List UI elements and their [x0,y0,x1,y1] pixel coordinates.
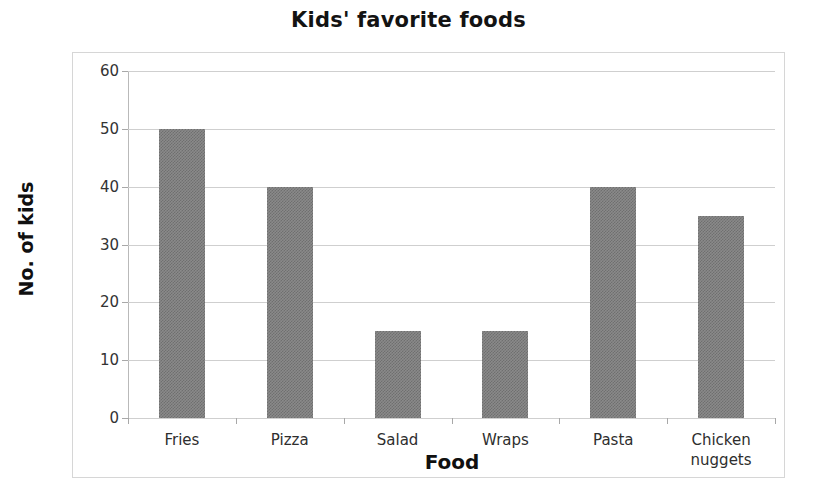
bar-slot [667,71,775,418]
x-axis-category-label: Fries [128,430,236,450]
x-axis-category-label: Salad [344,430,452,450]
y-axis-tick-label: 20 [100,293,119,311]
x-axis-tick-mark [559,418,560,424]
bar-slot [128,71,236,418]
bar[interactable] [698,216,744,418]
plot-area: 0102030405060 [128,71,775,418]
x-axis-category-label: Wraps [452,430,560,450]
bar-slot [236,71,344,418]
y-axis-tick-label: 40 [100,178,119,196]
y-axis-tick-label: 10 [100,351,119,369]
x-axis-title: Food [128,450,776,474]
bar-slot [559,71,667,418]
x-axis-tick-mark [128,418,129,424]
y-axis-tick-label: 50 [100,120,119,138]
bar[interactable] [590,187,636,418]
bar[interactable] [267,187,313,418]
x-axis-tick-mark [452,418,453,424]
y-axis-title: No. of kids [15,169,37,309]
chart-title: Kids' favorite foods [0,8,817,32]
y-axis-tick-label: 0 [109,409,119,427]
bar[interactable] [159,129,205,418]
x-axis-tick-mark [667,418,668,424]
x-axis-tick-mark [344,418,345,424]
y-axis-tick-label: 30 [100,236,119,254]
bar-slot [452,71,560,418]
bar-slot [344,71,452,418]
bar[interactable] [482,331,528,418]
bar[interactable] [375,331,421,418]
x-axis-category-label: Pasta [559,430,667,450]
x-axis-category-label: Pizza [236,430,344,450]
x-axis-tick-mark [236,418,237,424]
x-axis-tick-mark [775,418,776,424]
y-axis-tick-label: 60 [100,62,119,80]
